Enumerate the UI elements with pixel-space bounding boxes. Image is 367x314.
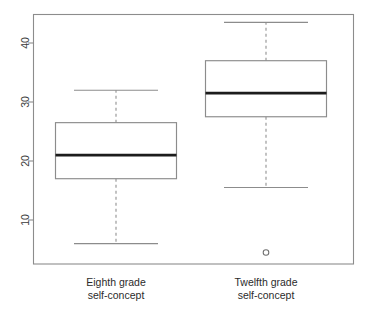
boxplot-figure: 10203040 Eighth gradeself-conceptTwelfth… [0, 0, 367, 314]
y-axis-tick-label: 30 [19, 96, 31, 108]
category-label-2-line-2: self-concept [238, 289, 295, 301]
y-axis-tick-label: 20 [19, 155, 31, 167]
y-axis-tick-label: 40 [19, 37, 31, 49]
category-label-1-line-1: Eighth grade [86, 276, 146, 288]
category-label-2-line-1: Twelfth grade [234, 276, 297, 288]
y-axis-tick-label: 10 [19, 214, 31, 226]
boxplot-canvas: 10203040 Eighth gradeself-conceptTwelfth… [0, 0, 367, 314]
category-label-1-line-2: self-concept [88, 289, 145, 301]
